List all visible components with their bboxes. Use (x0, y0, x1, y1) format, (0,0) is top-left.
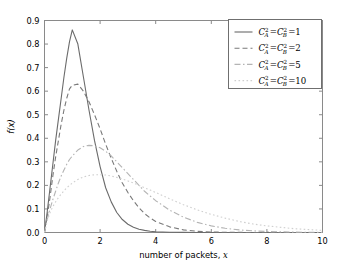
y-tick-label: 0.7 (26, 63, 39, 73)
legend-label-3: C2A=C2B=10 (259, 75, 307, 87)
x-tick-label: 4 (153, 236, 158, 246)
y-tick-label: 0.6 (26, 86, 39, 96)
x-tick-label: 2 (97, 236, 102, 246)
y-axis-label: f(x) (6, 119, 16, 133)
y-tick-label: 0.9 (26, 16, 39, 26)
x-tick-label: 0 (42, 236, 47, 246)
y-tick-label: 0.1 (26, 204, 39, 214)
y-tick-label: 0.8 (26, 39, 39, 49)
x-axis-label: number of packets, x (139, 250, 228, 260)
y-tick-label: 0.3 (26, 157, 39, 167)
y-tick-label: 0.0 (26, 228, 39, 238)
series-line-1 (45, 84, 323, 232)
x-tick-label: 6 (209, 236, 214, 246)
x-tick-label: 8 (264, 236, 269, 246)
series-line-2 (45, 145, 323, 232)
legend-label-0: C2A=C2B=1 (259, 27, 301, 39)
legend-label-1: C2A=C2B=2 (259, 43, 301, 55)
y-tick-label: 0.5 (26, 110, 39, 120)
series-line-3 (45, 175, 323, 233)
y-tick-label: 0.2 (26, 180, 39, 190)
y-tick-label: 0.4 (26, 133, 39, 143)
figure-canvas: 02468100.00.10.20.30.40.50.60.70.80.9num… (0, 0, 338, 274)
chart-plot: 02468100.00.10.20.30.40.50.60.70.80.9num… (0, 0, 338, 274)
x-tick-label: 10 (317, 236, 327, 246)
legend-label-2: C2A=C2B=5 (259, 59, 301, 71)
